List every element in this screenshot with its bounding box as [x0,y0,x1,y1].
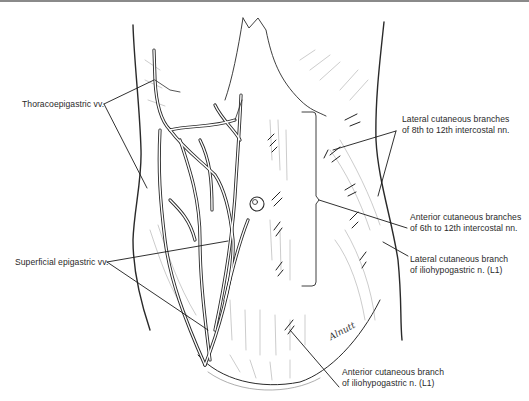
abdomen-illustration [0,0,529,401]
label-anterior-cutaneous-intercostal: Anterior cutaneous branches of 6th to 12… [410,212,521,234]
body-outline-right [376,22,402,340]
label-lateral-cutaneous-iliohypogastric: Lateral cutaneous branch of iliohypogast… [410,254,508,276]
sternum-outline [243,18,326,116]
leader-thoracoepigastric [104,80,154,188]
cutaneous-nerve-twigs [268,114,366,334]
anterior-branches-bracket [302,112,319,286]
label-thoracoepigastric-veins: Thoracoepigastric vv. [22,99,104,110]
label-superficial-epigastric-veins: Superficial epigastric vv. [15,257,108,268]
superficial-veins [154,50,248,365]
label-anterior-cutaneous-iliohypogastric: Anterior cutaneous branch of iliohypogas… [342,367,444,389]
costal-margin-left [225,18,243,100]
leader-anterior-intercostal [319,200,407,228]
leader-lines [104,80,408,387]
label-lateral-cutaneous-intercostal: Lateral cutaneous branches of 8th to 12t… [402,114,510,136]
